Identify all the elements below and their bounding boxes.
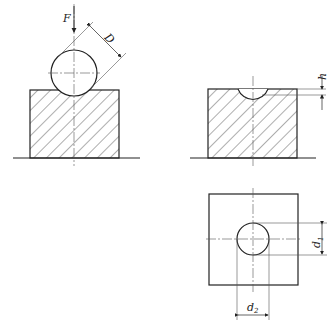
indentation-plan-view: d 1 d 2 bbox=[206, 188, 327, 320]
specimen-block bbox=[30, 90, 119, 158]
hardness-test-diagram: F D h d 1 d bbox=[0, 0, 336, 330]
ball-loading-view: F D bbox=[13, 4, 140, 166]
d1-label: d bbox=[310, 241, 323, 248]
d2-label: d bbox=[247, 301, 254, 314]
d2-subscript: 2 bbox=[253, 307, 259, 315]
d1-subscript: 1 bbox=[317, 237, 325, 241]
depth-label: h bbox=[316, 73, 329, 80]
indentation-section-view: h bbox=[190, 73, 329, 166]
ball-diameter-label: D bbox=[101, 30, 117, 46]
plan-square bbox=[209, 194, 298, 285]
force-label: F bbox=[62, 12, 71, 25]
